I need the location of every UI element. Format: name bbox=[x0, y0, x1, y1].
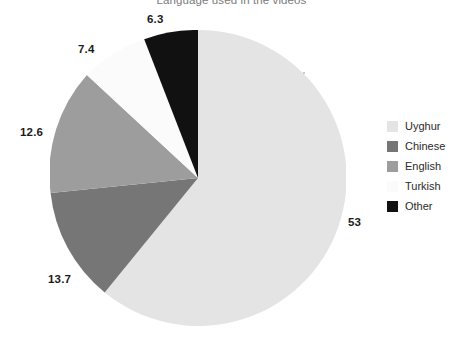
legend-item-english: English bbox=[387, 156, 463, 176]
pie-plot-area bbox=[50, 30, 346, 326]
pie-svg bbox=[50, 30, 346, 326]
legend-label-turkish: Turkish bbox=[405, 181, 441, 192]
scan-speck bbox=[303, 72, 305, 74]
data-label-other: 6.3 bbox=[147, 13, 164, 25]
legend-label-english: English bbox=[405, 161, 441, 172]
data-label-chinese: 13.7 bbox=[48, 273, 71, 285]
legend-label-uyghur: Uyghur bbox=[405, 121, 440, 132]
legend-item-turkish: Turkish bbox=[387, 176, 463, 196]
pie-slices-group bbox=[50, 30, 346, 326]
data-label-english: 12.6 bbox=[20, 126, 43, 138]
legend-swatch-uyghur bbox=[387, 121, 398, 132]
legend-swatch-turkish bbox=[387, 181, 398, 192]
legend-label-chinese: Chinese bbox=[405, 141, 445, 152]
legend-swatch-chinese bbox=[387, 141, 398, 152]
legend-item-other: Other bbox=[387, 196, 463, 216]
legend-label-other: Other bbox=[405, 201, 433, 212]
legend-swatch-other bbox=[387, 201, 398, 212]
legend-item-uyghur: Uyghur bbox=[387, 116, 463, 136]
pie-chart-figure: Language used in the videos 5313.712.67.… bbox=[0, 0, 463, 341]
chart-legend: UyghurChineseEnglishTurkishOther bbox=[387, 116, 463, 216]
legend-swatch-english bbox=[387, 161, 398, 172]
data-label-uyghur: 53 bbox=[348, 216, 361, 228]
legend-item-chinese: Chinese bbox=[387, 136, 463, 156]
chart-title: Language used in the videos bbox=[0, 0, 463, 6]
data-label-turkish: 7.4 bbox=[78, 43, 95, 55]
